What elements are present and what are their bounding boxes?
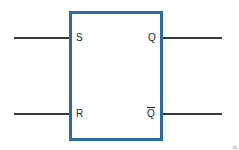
sr-latch-figure: S R Q Q © 2014 Cengage Learning [0, 0, 239, 150]
wire-output-q [161, 37, 222, 39]
pin-label-q-not: Q [147, 107, 155, 119]
pin-label-r: R [76, 108, 83, 119]
wire-input-r [14, 113, 71, 115]
pin-label-q: Q [148, 32, 156, 43]
wire-output-q-not [161, 113, 222, 115]
pin-label-q-not-text: Q [147, 107, 155, 119]
copyright-credit: © 2014 Cengage Learning [231, 146, 238, 150]
pin-label-s: S [76, 32, 83, 43]
wire-input-s [14, 37, 71, 39]
latch-body-rectangle [69, 11, 163, 141]
